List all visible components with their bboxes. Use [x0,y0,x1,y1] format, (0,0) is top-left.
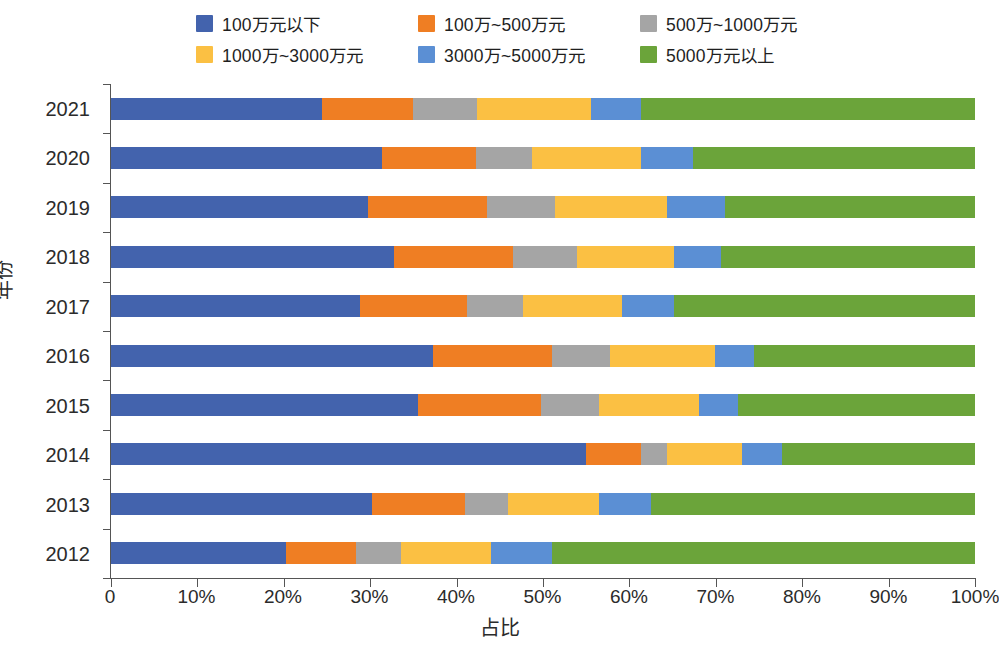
bar-segment[interactable] [413,98,478,120]
bar-segment[interactable] [491,542,551,564]
x-axis-tick-label: 100% [951,586,999,608]
bar-row[interactable] [111,295,975,317]
legend-swatch-icon [196,46,213,63]
bar-segment[interactable] [577,246,675,268]
bar-row[interactable] [111,493,975,515]
bar-segment[interactable] [111,147,382,169]
legend-swatch-icon [640,15,657,32]
bar-segment[interactable] [111,196,368,218]
bar-segment[interactable] [513,246,577,268]
bar-row[interactable] [111,394,975,416]
bar-segment[interactable] [622,295,674,317]
bar-segment[interactable] [111,493,372,515]
plot-area [110,84,975,579]
bar-segment[interactable] [721,246,975,268]
bar-segment[interactable] [555,196,666,218]
bar-segment[interactable] [476,147,532,169]
bar-row[interactable] [111,542,975,564]
bar-segment[interactable] [599,493,651,515]
y-axis-tick-label: 2012 [0,543,100,565]
bar-segment[interactable] [111,542,286,564]
bar-segment[interactable] [541,394,599,416]
bar-segment[interactable] [667,196,726,218]
bar-segment[interactable] [372,493,465,515]
bar-segment[interactable] [782,443,975,465]
bar-segment[interactable] [599,394,699,416]
bar-segment[interactable] [552,345,610,367]
bar-row[interactable] [111,246,975,268]
y-axis-tick [103,232,111,233]
legend-item[interactable]: 100万元以下 [196,11,418,36]
bar-segment[interactable] [111,345,433,367]
bar-segment[interactable] [693,147,975,169]
y-axis-tick [103,380,111,381]
bar-segment[interactable] [477,98,591,120]
y-axis-tick-label: 2021 [0,98,100,120]
bar-segment[interactable] [401,542,491,564]
bar-segment[interactable] [754,345,975,367]
y-axis-tick [103,529,111,530]
bar-row[interactable] [111,345,975,367]
legend-item[interactable]: 500万~1000万元 [640,11,880,36]
legend-item[interactable]: 100万~500万元 [418,11,640,36]
bar-segment[interactable] [641,147,694,169]
bar-segment[interactable] [699,394,738,416]
bar-segment[interactable] [111,98,322,120]
bar-segment[interactable] [465,493,508,515]
bar-row[interactable] [111,443,975,465]
bar-segment[interactable] [356,542,402,564]
bar-row[interactable] [111,147,975,169]
bar-segment[interactable] [286,542,355,564]
legend-swatch-icon [196,15,213,32]
bar-segment[interactable] [433,345,551,367]
bar-segment[interactable] [508,493,599,515]
bar-segment[interactable] [418,394,542,416]
bar-segment[interactable] [368,196,486,218]
bar-segment[interactable] [111,295,360,317]
x-axis-tick-label: 80% [783,586,821,608]
bar-segment[interactable] [725,196,975,218]
bar-segment[interactable] [111,443,586,465]
x-axis-tick-label: 50% [523,586,561,608]
stacked-bar-chart: 100万元以下100万~500万元500万~1000万元1000万~3000万元… [0,0,999,647]
bar-segment[interactable] [382,147,475,169]
bar-segment[interactable] [667,443,741,465]
y-axis-tick-label: 2019 [0,197,100,219]
bar-segment[interactable] [487,196,555,218]
bar-segment[interactable] [742,443,783,465]
bar-segment[interactable] [591,98,641,120]
legend-label: 500万~1000万元 [666,11,798,36]
y-axis-tick-label: 2014 [0,444,100,466]
y-axis-tick-label: 2016 [0,345,100,367]
y-axis-tick [103,430,111,431]
bar-segment[interactable] [322,98,413,120]
y-axis-tick-label: 2013 [0,494,100,516]
bar-segment[interactable] [586,443,640,465]
y-axis-tick [103,133,111,134]
bar-segment[interactable] [111,246,394,268]
bar-row[interactable] [111,98,975,120]
legend-item[interactable]: 1000万~3000万元 [196,42,418,67]
bar-row[interactable] [111,196,975,218]
x-axis-tick-label: 90% [869,586,907,608]
legend-item[interactable]: 3000万~5000万元 [418,42,640,67]
bar-segment[interactable] [674,246,721,268]
bar-segment[interactable] [111,394,418,416]
legend-item[interactable]: 5000万元以上 [640,42,880,67]
bar-segment[interactable] [394,246,512,268]
bar-segment[interactable] [467,295,523,317]
bar-segment[interactable] [641,98,975,120]
bar-segment[interactable] [532,147,641,169]
bar-segment[interactable] [651,493,975,515]
bar-segment[interactable] [610,345,715,367]
bar-segment[interactable] [641,443,668,465]
bar-segment[interactable] [715,345,754,367]
bar-segment[interactable] [674,295,975,317]
bar-segment[interactable] [523,295,622,317]
bar-segment[interactable] [360,295,467,317]
bar-segment[interactable] [738,394,975,416]
legend-label: 5000万元以上 [666,42,775,67]
legend-label: 3000万~5000万元 [444,42,585,67]
bar-segment[interactable] [552,542,975,564]
y-axis-tick [103,84,111,85]
